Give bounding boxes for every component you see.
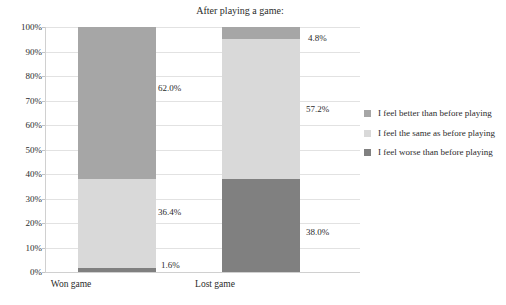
chart-title: After playing a game: xyxy=(120,5,360,16)
legend-item-worse[interactable]: I feel worse than before playing xyxy=(364,147,504,159)
data-label-lost-worse: 38.0% xyxy=(306,227,329,237)
bar-segment-won-same[interactable] xyxy=(78,179,156,268)
data-label-won-same: 36.4% xyxy=(158,207,181,217)
x-label-lost-game: Lost game xyxy=(160,279,270,289)
legend-item-same[interactable]: I feel the same as before playing xyxy=(364,128,504,140)
y-tick-100: 100% xyxy=(2,22,42,32)
gridline-0 xyxy=(46,272,360,273)
bar-segment-won-better[interactable] xyxy=(78,27,156,179)
bar-segment-lost-same[interactable] xyxy=(222,39,300,179)
legend-swatch-icon-worse xyxy=(364,149,371,156)
bar-segment-lost-worse[interactable] xyxy=(222,179,300,272)
y-tick-0: 0% xyxy=(2,267,42,277)
y-tick-10: 10% xyxy=(2,243,42,253)
y-axis: 100% 90% 80% 70% 60% 50% 40% 30% 20% 10%… xyxy=(0,27,42,272)
legend-label-worse: I feel worse than before playing xyxy=(378,147,493,157)
legend-label-better: I feel better than before playing xyxy=(378,108,492,118)
x-label-won-game: Won game xyxy=(16,279,126,289)
y-tick-30: 30% xyxy=(2,194,42,204)
y-tick-60: 60% xyxy=(2,120,42,130)
y-tick-70: 70% xyxy=(2,96,42,106)
data-label-lost-same: 57.2% xyxy=(306,104,329,114)
bar-segment-won-worse[interactable] xyxy=(78,268,156,272)
bar-lost-game[interactable] xyxy=(222,27,300,272)
legend-label-same: I feel the same as before playing xyxy=(378,128,495,138)
chart-container: After playing a game: 100% 90% 80% 70% 6… xyxy=(0,0,506,305)
y-tick-40: 40% xyxy=(2,169,42,179)
plot-area: 62.0% 36.4% 1.6% 4.8% 57.2% 38.0% xyxy=(46,27,360,272)
legend-swatch-icon-better xyxy=(364,110,371,117)
y-tick-90: 90% xyxy=(2,47,42,57)
y-tick-20: 20% xyxy=(2,218,42,228)
legend-swatch-icon-same xyxy=(364,130,371,137)
y-tick-80: 80% xyxy=(2,71,42,81)
bar-segment-lost-better[interactable] xyxy=(222,27,300,39)
chart-legend: I feel better than before playing I feel… xyxy=(364,108,504,167)
data-label-won-better: 62.0% xyxy=(158,83,181,93)
y-tick-50: 50% xyxy=(2,145,42,155)
data-label-lost-better: 4.8% xyxy=(308,33,327,43)
bar-won-game[interactable] xyxy=(78,27,156,272)
legend-item-better[interactable]: I feel better than before playing xyxy=(364,108,504,120)
data-label-won-worse: 1.6% xyxy=(161,260,180,270)
